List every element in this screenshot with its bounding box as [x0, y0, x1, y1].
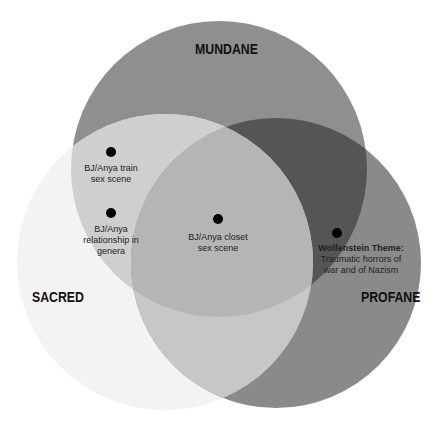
item-text: BJ/Anya train: [66, 163, 156, 174]
venn-diagram: [0, 0, 442, 427]
item-text: sex scene: [173, 243, 263, 254]
item-text: BJ/Anya: [66, 224, 156, 235]
item-title: Wolfenstein Theme:: [316, 243, 406, 254]
dot-train-scene: [106, 147, 116, 157]
label-sacred: SACRED: [32, 288, 84, 305]
dot-relationship: [106, 208, 116, 218]
item-text: relationship in: [66, 235, 156, 246]
item-text: war and of Nazism: [316, 265, 406, 276]
item-text: BJ/Anya closet: [173, 232, 263, 243]
item-text: sex scene: [66, 174, 156, 185]
item-text: Traumatic horrors of: [316, 254, 406, 265]
item-train-scene: BJ/Anya train sex scene: [66, 163, 156, 185]
label-mundane: MUNDANE: [195, 40, 258, 57]
item-closet-scene: BJ/Anya closet sex scene: [173, 232, 263, 254]
item-text: genera: [66, 246, 156, 257]
dot-closet-scene: [213, 214, 223, 224]
label-profane: PROFANE: [361, 288, 420, 305]
dot-wolfenstein-theme: [332, 228, 342, 238]
item-relationship: BJ/Anya relationship in genera: [66, 224, 156, 257]
item-wolfenstein-theme: Wolfenstein Theme: Traumatic horrors of …: [316, 243, 406, 276]
